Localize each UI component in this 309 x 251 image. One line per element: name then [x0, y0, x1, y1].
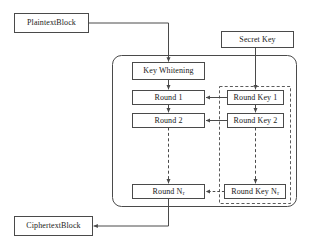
round-key-n-label: Round Key Nr	[224, 184, 286, 199]
round-key-n-label-main: Round Key N	[231, 188, 277, 196]
round-key1-label: Round Key 1	[227, 90, 284, 105]
edge-round-n-to-ciphertext	[94, 199, 169, 227]
secret-key-label: Secret Key	[221, 31, 294, 48]
plaintext-label: PlaintextBlock	[14, 13, 89, 33]
key-whitening-label: Key Whitening	[132, 62, 205, 80]
round-n-label-main: Round N	[153, 188, 183, 196]
round2-label: Round 2	[132, 113, 205, 128]
round-key-n-label-sub: r	[277, 191, 279, 197]
round-n-label: Round Nr	[132, 184, 205, 199]
diagram-canvas: PlaintextBlock Secret Key Key Whitening …	[0, 0, 309, 251]
round1-label: Round 1	[132, 90, 205, 105]
round-n-label-sub: r	[183, 191, 185, 197]
ciphertext-label: CiphertextBlock	[14, 216, 93, 236]
round-key2-label: Round Key 2	[227, 113, 284, 128]
